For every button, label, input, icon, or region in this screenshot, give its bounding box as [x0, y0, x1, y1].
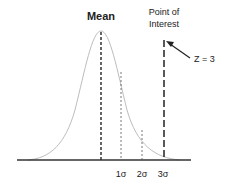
point-of-interest-label-2: Interest [149, 19, 180, 29]
mean-label: Mean [87, 10, 115, 22]
sigma-3-label: 3σ [158, 169, 169, 179]
point-of-interest-label-1: Point of [149, 7, 180, 17]
z-label: Z = 3 [194, 54, 215, 64]
z-arrow-shaft [170, 44, 190, 58]
normal-distribution-diagram: Mean Point of Interest Z = 3 1σ 2σ 3σ [0, 0, 235, 185]
bell-curve [28, 31, 180, 160]
sigma-1-label: 1σ [116, 169, 127, 179]
sigma-2-label: 2σ [137, 169, 148, 179]
